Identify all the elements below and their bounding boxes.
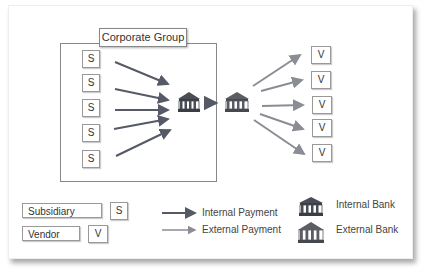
legend-internal-payment-label: Internal Payment (202, 207, 278, 218)
external-bank-icon (224, 91, 250, 113)
internal-payment-arrow (115, 89, 168, 100)
legend-vendor-label: Vendor (22, 226, 80, 241)
internal-payment-arrow (114, 119, 168, 129)
external-payment-arrow (253, 55, 300, 86)
legend-external-bank-label: External Bank (336, 224, 398, 235)
internal-payment-arrow (115, 62, 168, 84)
legend-external-bank-icon (297, 221, 325, 243)
external-payment-arrow (260, 114, 303, 129)
internal-payment-arrow (116, 130, 170, 156)
external-payment-arrow (254, 120, 304, 154)
legend-internal-bank-icon (298, 196, 324, 217)
legend-vendor-symbol: V (88, 225, 108, 243)
external-payment-arrow (262, 105, 303, 106)
internal-bank-icon (177, 91, 201, 113)
legend-subsidiary-label: Subsidiary (22, 203, 102, 218)
legend-subsidiary-symbol: S (110, 202, 128, 220)
legend-internal-bank-label: Internal Bank (336, 199, 395, 210)
external-payment-arrow (261, 80, 302, 91)
legend-external-payment-label: External Payment (202, 224, 281, 235)
